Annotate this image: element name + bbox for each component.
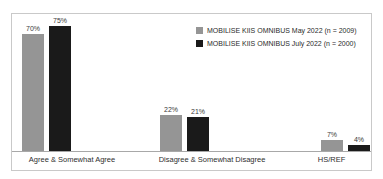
- legend-swatch-icon: [196, 40, 203, 47]
- chart-screenshot: 70% 75% 22% 21% 7% 4% Agree & Somewhat A…: [0, 0, 383, 179]
- bar-value-label: 70%: [16, 25, 50, 33]
- legend-label: MOBILISE KIIS OMNIBUS May 2022 (n = 2009…: [207, 26, 357, 35]
- bar-july-agree[interactable]: [49, 26, 71, 152]
- category-label-hsref: HS/REF: [292, 155, 371, 165]
- bar-july-disagree[interactable]: [187, 117, 209, 152]
- bar-value-label: 75%: [43, 17, 77, 25]
- chart-legend: MOBILISE KIIS OMNIBUS May 2022 (n = 2009…: [196, 24, 368, 50]
- bar-group-agree: 70% 75%: [12, 14, 132, 152]
- category-axis-line: [12, 151, 371, 152]
- bar-may-disagree[interactable]: [160, 115, 182, 152]
- bar-value-label: 4%: [342, 136, 376, 144]
- bar-value-label: 21%: [181, 108, 215, 116]
- cropped-header-text: [3, 0, 303, 7]
- legend-item-may[interactable]: MOBILISE KIIS OMNIBUS May 2022 (n = 2009…: [196, 24, 368, 36]
- legend-swatch-icon: [196, 27, 203, 34]
- category-label-agree: Agree & Somewhat Agree: [12, 155, 132, 165]
- category-label-disagree: Disagree & Somewhat Disagree: [132, 155, 292, 165]
- legend-label: MOBILISE KIIS OMNIBUS July 2022 (n = 200…: [207, 39, 356, 48]
- legend-item-july[interactable]: MOBILISE KIIS OMNIBUS July 2022 (n = 200…: [196, 37, 368, 49]
- bar-may-agree[interactable]: [22, 34, 44, 152]
